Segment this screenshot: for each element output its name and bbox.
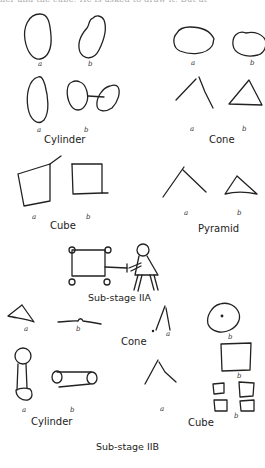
pyramid-a-drawing — [163, 167, 184, 197]
stage2a-figure-leg-left2 — [138, 275, 142, 291]
cylinder-b2-connector — [88, 96, 104, 97]
stage2b-line-b — [58, 319, 101, 324]
stage2b-cylinder-b-left — [52, 371, 62, 383]
stage2b-cone-b-drawing — [208, 303, 240, 332]
cube-b-drawing — [72, 164, 108, 193]
stage2b-cone-label-a: a — [166, 330, 170, 338]
stage2a-table-wheel-tr — [105, 247, 111, 253]
cylinder-a1-drawing — [25, 14, 52, 59]
cube-caption: Cube — [50, 220, 76, 231]
cone-label-a2: a — [190, 125, 194, 133]
stage2b-cube-b2-sq1 — [213, 383, 224, 394]
stage2b-cylinder-caption: Cylinder — [31, 416, 72, 427]
pyramid-a-right-line — [183, 170, 206, 192]
stage2b-cone-caption: Cone — [121, 336, 147, 347]
cone-a1-drawing — [174, 27, 214, 54]
stage2b-label-a-row1: a — [24, 325, 28, 333]
cube-label-a: a — [32, 213, 36, 221]
cylinder-label-b1: b — [88, 60, 92, 68]
stage2a-table-wheel-bl — [69, 279, 75, 285]
cube-a-extra-line — [50, 156, 61, 164]
cylinder-a2-drawing — [27, 77, 48, 123]
cone-a2-right-line — [199, 77, 213, 108]
stage2a-table-wheel-br — [104, 279, 110, 285]
stage2b-cube-b2-sq3 — [214, 400, 227, 411]
cylinder-b1-drawing — [79, 16, 105, 58]
stage2a-figure-body — [135, 256, 158, 275]
stage2a-table-body — [72, 250, 105, 276]
stage2b-cube-label-b1: b — [237, 372, 241, 380]
stage2b-cube-b2-sq2 — [239, 382, 254, 397]
child-drawings-figure — [0, 0, 265, 468]
stage2b-cube-b1-drawing — [221, 343, 251, 371]
stage2b-cone-a-dot — [152, 330, 153, 331]
cylinder-label-a2: a — [37, 126, 41, 134]
cylinder-b2-right-oval — [97, 85, 119, 111]
substage-2b-title: Sub-stage IIB — [96, 441, 159, 452]
stage2b-cube-label-a: a — [160, 405, 164, 413]
stage2b-cone-a-left — [156, 306, 165, 330]
pyramid-label-b: b — [237, 209, 241, 217]
stage2b-cube-caption: Cube — [188, 417, 214, 428]
cylinder-caption: Cylinder — [44, 134, 85, 145]
cylinder-label-a1: a — [38, 60, 42, 68]
stage2b-cylinder-a-bottom — [16, 388, 32, 400]
stage2b-cylinder-a-left — [17, 364, 18, 390]
substage-2a-title: Sub-stage IIA — [88, 292, 151, 303]
stage2b-cylinder-label-b: b — [70, 406, 74, 414]
cone-label-b2: b — [242, 125, 246, 133]
stage2b-cone2-a-right — [159, 362, 176, 382]
cylinder-b2-left-oval — [67, 81, 87, 110]
cube-a-drawing — [18, 164, 50, 206]
stage2b-label-b-row1: b — [76, 325, 80, 333]
stage2a-figure-leg-right — [150, 275, 154, 290]
stage2b-cube-label-b2: b — [234, 412, 238, 420]
stage2b-triangle-a — [8, 305, 34, 322]
stage2a-figure-leg-left — [134, 275, 138, 290]
stage2b-cylinder-b-right — [87, 372, 97, 384]
cube-label-b: b — [86, 213, 90, 221]
pyramid-label-a: a — [184, 209, 188, 217]
stage2b-cube-b2-sq4 — [240, 400, 254, 411]
pyramid-b-drawing — [225, 176, 257, 194]
cube-b-left-side — [72, 164, 102, 194]
cone-a2-left-line — [176, 79, 196, 100]
cone-label-b1: b — [250, 59, 254, 67]
stage2b-cylinder-a-top — [15, 348, 31, 364]
cone-label-a1: a — [191, 59, 195, 67]
cone-caption: Cone — [209, 134, 235, 145]
stage2b-cylinder-label-a: a — [22, 406, 26, 414]
stage2b-cone2-a-left — [145, 360, 158, 384]
stage2b-cylinder-a-right — [26, 364, 27, 388]
stage2a-figure-leg-right2 — [154, 275, 158, 290]
cone-b1-drawing — [233, 32, 265, 56]
stage2b-cone-b-dot — [221, 315, 223, 317]
stage2b-cone-a-right — [166, 308, 170, 330]
stage2a-push-bar — [105, 267, 127, 268]
cylinder-label-b2: b — [84, 126, 88, 134]
cone-b2-drawing — [229, 80, 262, 105]
pyramid-caption: Pyramid — [198, 223, 239, 234]
stage2b-cylinder-b-bottom — [59, 384, 90, 387]
stage2a-figure-head — [137, 244, 149, 256]
stage2b-cone-label-b: b — [228, 333, 232, 341]
